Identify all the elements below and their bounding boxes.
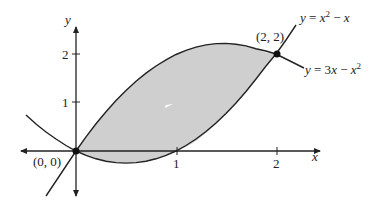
point-label-2-2: (2, 2): [256, 29, 284, 44]
y-tick-label-2: 2: [62, 47, 69, 62]
y-tick-label-1: 1: [62, 95, 69, 110]
curve-label-upper: y = 3x − x2: [303, 61, 361, 77]
curve-label-lower: y = x2 − x: [298, 9, 350, 25]
x-tick-label-2: 2: [273, 156, 280, 171]
x-tick-label-1: 1: [173, 156, 180, 171]
x-axis-label: x: [311, 149, 318, 164]
y-axis-label: y: [63, 12, 71, 27]
point-2-2: [274, 51, 281, 58]
point-label-origin: (0, 0): [33, 154, 61, 169]
point-origin: [73, 148, 80, 155]
region-between-curves-diagram: y x 2 1 1 2 (0, 0) (2, 2) y = x2 − x y =…: [0, 0, 381, 210]
